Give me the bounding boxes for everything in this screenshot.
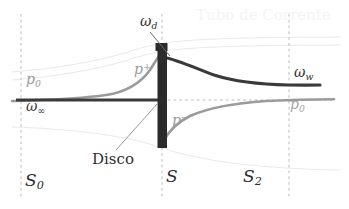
omega-infinity-label: ω∞ <box>26 99 45 115</box>
station-s0-subscript: 0 <box>37 179 44 192</box>
p-minus-label: p− <box>172 113 189 127</box>
station-s0-symbol: S <box>25 170 37 190</box>
streamline-upper-outer <box>12 37 340 72</box>
p-zero-right-symbol: p <box>290 96 299 112</box>
p-zero-left-symbol: p <box>26 71 35 87</box>
stream-tube-label: Tubo de Corrente <box>196 8 331 23</box>
station-s2-symbol: S <box>243 166 255 186</box>
station-s-label: S <box>166 168 178 185</box>
omega-w-label: ωw <box>294 65 313 81</box>
p-minus-symbol: p <box>172 112 181 128</box>
p-plus-symbol: p <box>134 61 143 77</box>
p-zero-left-label: p0 <box>26 72 41 88</box>
omega-d-symbol: ω <box>140 13 151 29</box>
omega-w-subscript: w <box>305 71 313 82</box>
omega-infinity-subscript: ∞ <box>37 105 45 116</box>
p-plus-superscript: + <box>143 61 151 72</box>
station-s2-label: S2 <box>243 168 262 187</box>
omega-infinity-symbol: ω <box>26 98 37 114</box>
disco-label: Disco <box>92 152 134 167</box>
p-zero-right-subscript: 0 <box>299 103 305 114</box>
p-plus-label: p+ <box>134 62 151 76</box>
omega-d-label: ωd <box>140 14 157 30</box>
station-s2-subscript: 2 <box>255 175 262 188</box>
p-zero-right-label: p0 <box>290 97 305 113</box>
disc-top-cap <box>156 43 168 51</box>
station-s0-label: S0 <box>25 172 44 191</box>
omega-d-subscript: d <box>151 20 157 31</box>
leader-line-disco <box>116 103 158 150</box>
streamline-upper-inner <box>12 45 340 80</box>
p-zero-left-subscript: 0 <box>35 78 41 89</box>
figure-container: Tubo de Corrente ωd p+ p0 ω∞ ωw p0 p− Di… <box>0 0 349 209</box>
streamline-lower <box>12 127 340 170</box>
p-minus-superscript: − <box>181 112 189 123</box>
omega-w-symbol: ω <box>294 64 305 80</box>
disc-body <box>158 50 168 148</box>
